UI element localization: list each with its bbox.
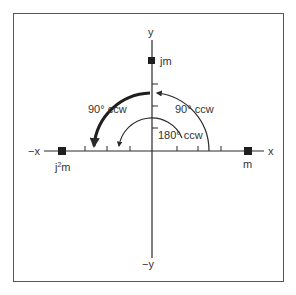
point-jm-label: jm [160,56,172,67]
x-axis-ticks [85,146,221,151]
point-m-marker [244,147,252,155]
rotation-label-90-right: 90° ccw [175,104,214,115]
arc-90-right [157,93,209,151]
point-j2m-marker [58,147,66,155]
y-axis-positive-label: y [148,27,154,38]
point-m-label: m [243,159,252,170]
x-axis-positive-label: x [268,146,274,157]
x-axis-negative-label: −x [28,146,40,157]
y-axis-ticks [152,84,158,128]
rotation-label-90-left: 90° ccw [88,104,127,115]
complex-plane-diagram [0,0,296,295]
point-jm-marker [148,57,155,64]
point-j2m-label: j2m [55,159,71,173]
rotation-label-180: 180° ccw [158,130,203,141]
y-axis-negative-label: −y [142,259,154,270]
